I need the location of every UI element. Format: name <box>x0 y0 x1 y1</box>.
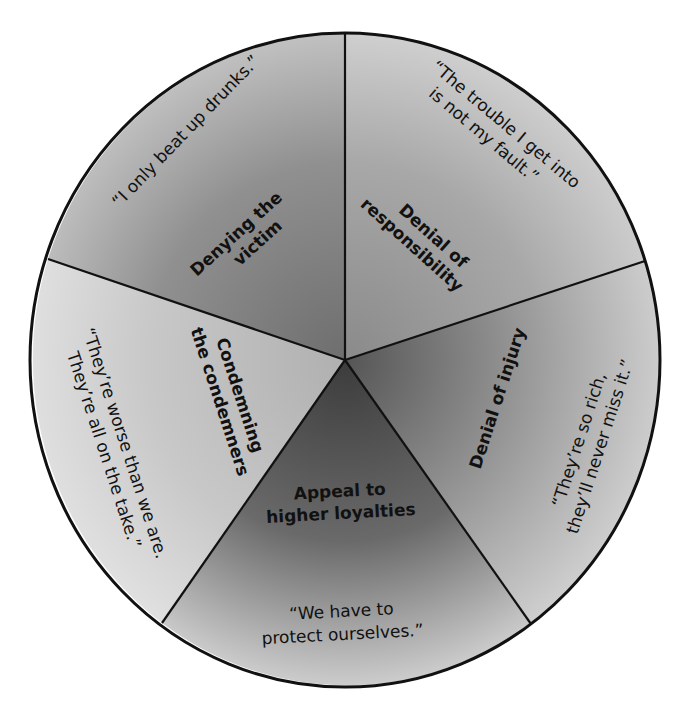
neutralization-wheel: Denying the victim “I only beat up drunk… <box>0 0 688 716</box>
